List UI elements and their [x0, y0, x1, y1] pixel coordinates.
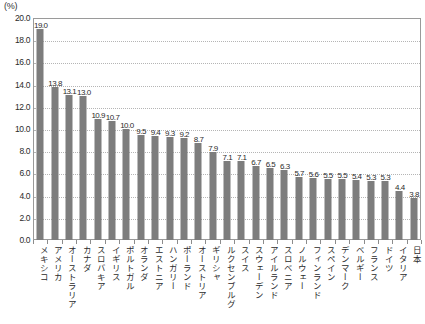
bar[interactable] [65, 95, 72, 240]
bar-slot: 13.8 [47, 18, 61, 240]
x-axis-tick [349, 240, 350, 244]
y-axis-unit-label: (%) [4, 1, 17, 11]
x-axis-tick [105, 240, 106, 244]
x-axis-tick [277, 240, 278, 244]
x-axis-tick [47, 240, 48, 244]
x-axis-tick [162, 240, 163, 244]
x-axis-category-label: デンマーク [335, 246, 348, 291]
bar[interactable] [382, 181, 389, 240]
x-axis-category-label: スペイン [321, 246, 334, 282]
bar-value-label: 5.3 [366, 173, 376, 182]
bar[interactable] [367, 181, 374, 240]
x-axis-category-label: スロバキア [91, 246, 104, 291]
y-axis-tick-label: 12.0 [0, 102, 30, 112]
bars-layer: 19.013.813.113.010.910.710.09.59.49.39.2… [33, 18, 421, 240]
x-axis-tick [191, 240, 192, 244]
bar-value-label: 4.4 [395, 183, 405, 192]
bar[interactable] [123, 129, 130, 240]
x-axis-category-label: アメリカ [48, 246, 61, 282]
x-axis-tick [90, 240, 91, 244]
x-axis-category-label: フランス [364, 246, 377, 282]
bar[interactable] [209, 152, 216, 240]
x-axis-category-label: カナダ [77, 246, 90, 273]
bar[interactable] [180, 138, 187, 240]
bar-chart: (%) 20.018.016.014.012.010.08.06.04.02.0… [0, 0, 425, 324]
x-axis-tick [421, 240, 422, 244]
bar-value-label: 6.7 [251, 158, 261, 167]
x-axis-tick [392, 240, 393, 244]
x-axis-category-labels: メキシコアメリカオーストラリアカナダスロバキアイギリスポルトガルオランダエストニ… [33, 246, 421, 324]
y-axis-tick-label: 0.0 [0, 235, 30, 245]
bar-slot: 5.3 [364, 18, 378, 240]
bar[interactable] [252, 166, 259, 240]
bar[interactable] [137, 135, 144, 240]
bar-slot: 13.1 [62, 18, 76, 240]
bar[interactable] [51, 87, 58, 240]
bar-slot: 6.7 [249, 18, 263, 240]
bar[interactable] [281, 170, 288, 240]
bar[interactable] [37, 29, 44, 240]
x-axis-tick [306, 240, 307, 244]
bar[interactable] [324, 179, 331, 240]
x-axis-category-label: オーストリア [192, 246, 205, 300]
y-axis-tick-label: 16.0 [0, 57, 30, 67]
x-axis-category-label: ドイツ [379, 246, 392, 273]
bar-value-label: 19.0 [34, 21, 48, 30]
bar-value-label: 5.3 [381, 173, 391, 182]
bar[interactable] [223, 161, 230, 240]
x-axis-tick [263, 240, 264, 244]
x-axis-tick [134, 240, 135, 244]
bar[interactable] [353, 180, 360, 240]
bar-slot: 9.3 [162, 18, 176, 240]
bar-slot: 10.0 [119, 18, 133, 240]
bar-value-label: 5.5 [338, 171, 348, 180]
bar[interactable] [166, 137, 173, 240]
bar-value-label: 5.5 [323, 171, 333, 180]
x-axis-tick [378, 240, 379, 244]
bar[interactable] [109, 121, 116, 240]
bar-slot: 5.6 [306, 18, 320, 240]
bar-slot: 5.3 [378, 18, 392, 240]
bar[interactable] [295, 177, 302, 240]
bar-value-label: 7.9 [208, 144, 218, 153]
bar[interactable] [195, 143, 202, 240]
bar[interactable] [152, 136, 159, 240]
bar[interactable] [94, 119, 101, 240]
x-axis-category-label: ノルウェー [292, 246, 305, 291]
bar-value-label: 7.1 [223, 153, 233, 162]
bar-value-label: 13.8 [48, 79, 62, 88]
x-axis-category-label: メキシコ [34, 246, 47, 282]
bar[interactable] [238, 161, 245, 240]
bar[interactable] [410, 198, 417, 240]
bar[interactable] [396, 191, 403, 240]
x-axis-category-label: オーストラリア [62, 246, 75, 309]
bar[interactable] [338, 179, 345, 240]
x-axis-tick [76, 240, 77, 244]
x-axis-ticks [33, 240, 421, 245]
bar-value-label: 6.3 [280, 162, 290, 171]
bar-value-label: 3.8 [409, 190, 419, 199]
bar-slot: 8.7 [191, 18, 205, 240]
bar[interactable] [80, 96, 87, 240]
x-axis-tick [364, 240, 365, 244]
x-axis-category-label: ベルギー [350, 246, 363, 282]
bar-slot: 5.5 [335, 18, 349, 240]
bar-value-label: 5.4 [352, 172, 362, 181]
y-axis-tick-label: 8.0 [0, 146, 30, 156]
bar-slot: 19.0 [33, 18, 47, 240]
y-axis-tick-label: 10.0 [0, 124, 30, 134]
y-axis-tick-label: 20.0 [0, 13, 30, 23]
bar-slot: 7.1 [234, 18, 248, 240]
bar[interactable] [267, 168, 274, 240]
bar-value-label: 10.7 [106, 113, 120, 122]
x-axis-tick [33, 240, 34, 244]
bar-value-label: 8.7 [194, 135, 204, 144]
y-axis-tick-label: 2.0 [0, 213, 30, 223]
bar-slot: 6.5 [263, 18, 277, 240]
bar-slot: 6.3 [277, 18, 291, 240]
bar[interactable] [310, 178, 317, 240]
bar-value-label: 9.3 [165, 129, 175, 138]
x-axis-tick [249, 240, 250, 244]
bar-slot: 9.2 [177, 18, 191, 240]
x-axis-category-label: ポーランド [177, 246, 190, 291]
